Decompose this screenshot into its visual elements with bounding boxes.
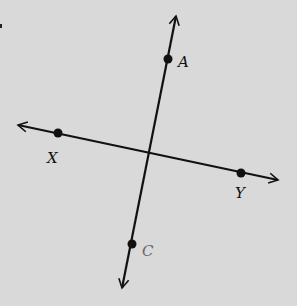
points-group: AXYC <box>46 53 247 260</box>
point-x <box>54 129 63 138</box>
label-a: A <box>176 53 189 71</box>
diagram-canvas: AXYC <box>0 0 297 306</box>
point-y <box>237 169 246 178</box>
label-x: X <box>46 149 59 167</box>
corner-mark <box>0 24 2 28</box>
label-y: Y <box>235 184 247 202</box>
point-c <box>128 240 137 249</box>
point-a <box>164 55 173 64</box>
label-c: C <box>142 242 154 260</box>
